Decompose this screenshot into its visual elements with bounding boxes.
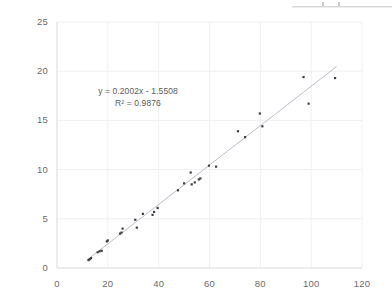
data-point — [153, 211, 155, 213]
data-point — [334, 77, 336, 79]
x-axis-tick-label: 40 — [139, 278, 179, 289]
data-point — [191, 183, 193, 185]
x-axis-tick-label: 120 — [342, 278, 382, 289]
y-axis-tick-label: 5 — [14, 213, 48, 224]
data-point — [308, 103, 310, 105]
data-point — [101, 250, 103, 252]
data-point — [302, 76, 304, 78]
plot-area — [0, 0, 392, 301]
data-point — [237, 130, 239, 132]
data-point — [194, 181, 196, 183]
gridlines — [57, 22, 362, 268]
x-axis-tick-label: 60 — [190, 278, 230, 289]
x-axis-tick-label: 20 — [88, 278, 128, 289]
data-point — [99, 250, 101, 252]
data-point — [142, 213, 144, 215]
data-point — [121, 228, 123, 230]
y-axis-tick-label: 10 — [14, 164, 48, 175]
trendline-annotation: y = 0.2002x - 1.5508 R² = 0.9876 — [86, 86, 190, 109]
trendline-equation: y = 0.2002x - 1.5508 — [86, 86, 190, 98]
x-axis-tick-label: 100 — [291, 278, 331, 289]
trendline-r-squared: R² = 0.9876 — [86, 98, 190, 110]
data-point — [183, 182, 185, 184]
x-axis-tick-label: 0 — [37, 278, 77, 289]
scatter-chart: 0510152025 020406080100120 y = 0.2002x -… — [0, 0, 392, 301]
data-point — [107, 239, 109, 241]
data-point — [208, 165, 210, 167]
data-point — [90, 257, 92, 259]
data-point — [215, 166, 217, 168]
data-point — [190, 171, 192, 173]
data-point — [244, 136, 246, 138]
x-axis-tick-label: 80 — [240, 278, 280, 289]
y-axis-tick-label: 15 — [14, 114, 48, 125]
y-axis-tick-label: 0 — [14, 262, 48, 273]
data-point — [259, 112, 261, 114]
data-point — [151, 214, 153, 216]
data-point — [199, 177, 201, 179]
data-point — [136, 227, 138, 229]
data-point — [261, 125, 263, 127]
data-point — [134, 219, 136, 221]
data-point — [177, 189, 179, 191]
data-point — [97, 251, 99, 253]
data-point — [120, 231, 122, 233]
y-axis-tick-label: 25 — [14, 16, 48, 27]
y-axis-tick-label: 20 — [14, 65, 48, 76]
data-point — [157, 207, 159, 209]
